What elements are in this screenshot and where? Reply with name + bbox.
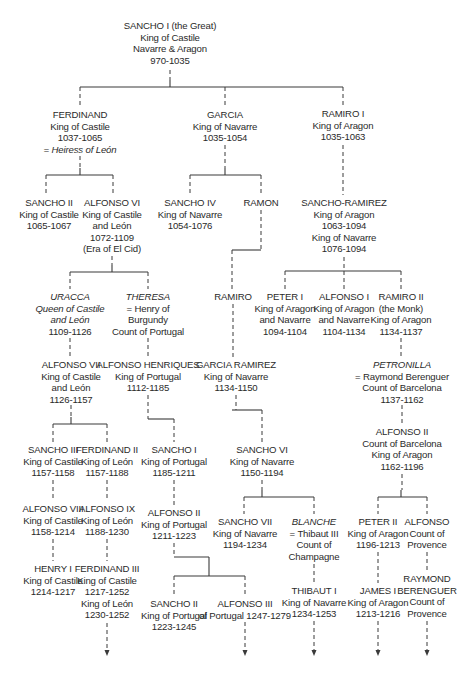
person-node-sancho2: SANCHO IIKing of Castile1065-1067 <box>19 197 79 232</box>
person-detail: King of León <box>76 456 138 468</box>
person-name: ALFONSO <box>405 516 450 528</box>
person-detail: 1234-1253 <box>282 608 346 620</box>
person-node-alfonso9: ALFONSO IXKing of León1188-1230 <box>79 503 135 538</box>
person-detail: King of Aragon <box>314 303 375 315</box>
person-name: SANCHO I (the Great) <box>124 20 216 32</box>
person-detail: 1134-1150 <box>196 382 276 394</box>
person-node-theresa: THERESA= Henry ofBurgundyCount of Portug… <box>112 291 184 337</box>
person-name: ALFONSO I <box>314 291 375 303</box>
person-detail: King of Portugal <box>96 371 199 383</box>
person-name: SANCHO IV <box>158 197 222 209</box>
person-node-ramon: RAMON <box>244 197 279 209</box>
person-name: SANCHO VII <box>213 516 277 528</box>
person-node-ramiro2: RAMIRO II(the Monk)King of Aragon1134-11… <box>371 291 432 337</box>
person-node-petronilla: PETRONILLA= Raymond BerenguerCount of Ba… <box>355 359 449 405</box>
person-detail: Queen of Castile <box>35 303 104 315</box>
person-detail: 1035-1054 <box>193 132 257 144</box>
person-detail: 1054-1076 <box>158 220 222 232</box>
person-detail: 1134-1137 <box>371 326 432 338</box>
person-detail: Count of <box>289 539 340 551</box>
person-detail: King of Castile <box>23 456 83 468</box>
person-detail: 1137-1162 <box>355 394 449 406</box>
person-detail: King of Aragon <box>301 209 386 221</box>
person-name: PETER II <box>348 516 409 528</box>
person-detail: King of Castile <box>82 209 142 221</box>
person-node-uracca: URACCAQueen of Castileand León1109-1126 <box>35 291 104 337</box>
person-detail: King of Portugal <box>141 519 207 531</box>
person-detail: BERENGUER <box>397 585 456 597</box>
person-detail: 1109-1126 <box>35 326 104 338</box>
person-name: ALFONSO HENRIQUES <box>96 359 199 371</box>
person-detail: 1211-1223 <box>141 530 207 542</box>
person-node-raymondberenguer: RAYMONDBERENGUERCount ofProvence <box>397 573 456 619</box>
person-detail: Count of Barcelona <box>362 438 441 450</box>
person-detail: King of León <box>75 598 140 610</box>
person-name: FERDINAND II <box>76 444 138 456</box>
person-node-ferdinand2: FERDINAND IIKing of León1157-1188 <box>76 444 138 479</box>
person-detail: King of Castile <box>124 32 216 44</box>
person-detail: 1217-1252 <box>75 586 140 598</box>
person-detail: King of Castile <box>44 121 117 133</box>
person-detail: 970-1035 <box>124 55 216 67</box>
person-name: FERDINAND III <box>75 563 140 575</box>
person-detail: King of Navarre <box>301 232 386 244</box>
person-detail: King of Castile <box>75 575 140 587</box>
person-detail: King of Aragon <box>348 528 409 540</box>
person-name: BLANCHE <box>289 516 340 528</box>
person-name: ALFONSO IX <box>79 503 135 515</box>
family-tree-diagram: SANCHO I (the Great)King of CastileNavar… <box>0 0 472 674</box>
person-detail: Navarre & Aragon <box>124 43 216 55</box>
person-name: URACCA <box>35 291 104 303</box>
person-node-ferdinand3: FERDINAND IIIKing of Castile1217-1252Kin… <box>75 563 140 621</box>
arrow-down-icon <box>312 650 317 656</box>
person-detail: King of Aragon <box>362 449 441 461</box>
person-node-thibaut1: THIBAUT IKing of Navarre1234-1253 <box>282 585 346 620</box>
person-detail: and León <box>35 314 104 326</box>
person-node-sancho7: SANCHO VIIKing of Navarre1194-1234 <box>213 516 277 551</box>
person-node-garciaramirez: GARCIA RAMIREZKing of Navarre1134-1150 <box>196 359 276 394</box>
person-detail: 1072-1109 <box>82 232 142 244</box>
person-detail: = Heiress of León <box>44 144 117 156</box>
person-detail: and Navarre <box>255 314 316 326</box>
arrow-down-icon <box>376 650 381 656</box>
person-detail: Champagne <box>289 551 340 563</box>
person-detail: Burgundy <box>112 314 184 326</box>
person-detail: 1196-1213 <box>348 539 409 551</box>
person-detail: 1112-1185 <box>96 382 199 394</box>
person-node-alfonso6: ALFONSO VIKing of Castileand León1072-11… <box>82 197 142 255</box>
person-node-sancho6: SANCHO VIKing of Navarre1150-1194 <box>230 444 294 479</box>
person-name: ALFONSO VIII <box>22 503 83 515</box>
person-name: GARCIA RAMIREZ <box>196 359 276 371</box>
person-node-sancho3: SANCHO IIIKing of Castile1157-1158 <box>23 444 83 479</box>
person-detail: King of Navarre <box>282 597 346 609</box>
person-detail: 1157-1158 <box>23 467 83 479</box>
person-node-sancho1portugal: SANCHO IKing of Portugal1185-1211 <box>141 444 207 479</box>
person-name: THERESA <box>112 291 184 303</box>
person-detail: 1076-1094 <box>301 243 386 255</box>
person-name: SANCHO III <box>23 444 83 456</box>
person-node-alfonsoprovence: ALFONSOCount ofProvence <box>405 516 450 551</box>
person-detail: 1094-1104 <box>255 326 316 338</box>
person-node-sancho2portugal: SANCHO IIKing of Portugal1223-1245 <box>141 598 207 633</box>
person-name: PETRONILLA <box>355 359 449 371</box>
person-node-sancho4: SANCHO IVKing of Navarre1054-1076 <box>158 197 222 232</box>
person-detail: King of Castile <box>22 515 83 527</box>
person-detail: 1162-1196 <box>362 461 441 473</box>
person-detail: Count of Barcelona <box>355 382 449 394</box>
person-detail: 1194-1234 <box>213 539 277 551</box>
person-node-sancho1: SANCHO I (the Great)King of CastileNavar… <box>124 20 216 66</box>
person-detail: Provence <box>397 608 456 620</box>
person-detail: King of León <box>79 515 135 527</box>
person-detail: 1065-1067 <box>19 220 79 232</box>
person-name: RAMIRO <box>214 291 251 303</box>
person-detail: and León <box>41 382 101 394</box>
person-detail: Provence <box>405 539 450 551</box>
person-detail: and Navarre <box>314 314 375 326</box>
person-detail: King of Castile <box>19 209 79 221</box>
person-detail: 1230-1252 <box>75 609 140 621</box>
person-detail: King of Aragon <box>255 303 316 315</box>
person-detail: 1150-1194 <box>230 467 294 479</box>
person-detail: King of Navarre <box>193 121 257 133</box>
person-detail: Count of Portugal <box>112 326 184 338</box>
person-detail: = Henry of <box>112 303 184 315</box>
